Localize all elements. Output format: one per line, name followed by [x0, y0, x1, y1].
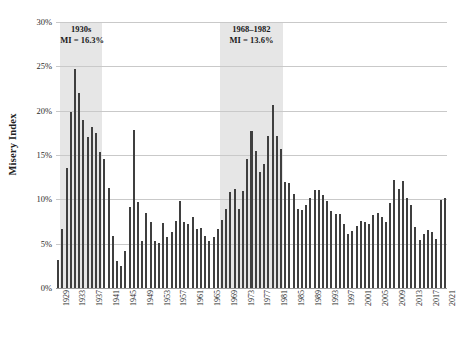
x-tick-label: 1941	[112, 290, 121, 306]
bar	[74, 69, 76, 288]
bar	[246, 159, 248, 288]
x-tick-label: 1969	[230, 290, 239, 306]
bar	[82, 120, 84, 288]
bar	[330, 211, 332, 288]
x-tick-label: 1973	[247, 290, 256, 306]
bar	[255, 151, 257, 288]
x-tick-label: 1949	[146, 290, 155, 306]
y-tick-label: 0%	[6, 283, 56, 293]
bar	[234, 189, 236, 288]
bar	[120, 266, 122, 288]
bar	[372, 215, 374, 288]
bar	[175, 221, 177, 288]
x-tick-label: 1957	[179, 290, 188, 306]
bar	[410, 205, 412, 288]
band-annotation-detail: MI = 13.6%	[220, 35, 283, 46]
bar	[129, 207, 131, 288]
bar	[339, 214, 341, 288]
bar	[360, 221, 362, 288]
y-tick-label: 25%	[6, 61, 56, 71]
bar	[389, 203, 391, 288]
bar	[196, 229, 198, 288]
bar	[364, 222, 366, 288]
band-annotation-label: 1968–1982	[232, 24, 270, 34]
x-tick-label: 2005	[381, 290, 390, 306]
bar	[326, 201, 328, 288]
bar	[381, 217, 383, 288]
bar	[133, 130, 135, 288]
bar	[213, 237, 215, 288]
band-annotation-detail: MI = 16.3%	[60, 35, 102, 46]
x-axis-tick-labels: 1929193319371941194519491953195719611965…	[56, 290, 447, 344]
x-tick-label: 1989	[314, 290, 323, 306]
bar	[242, 191, 244, 288]
band-annotation: 1968–1982MI = 13.6%	[220, 24, 283, 46]
bar	[78, 93, 80, 288]
bar	[356, 226, 358, 288]
bar	[385, 222, 387, 289]
bar	[288, 183, 290, 288]
bar	[154, 241, 156, 288]
bar	[406, 198, 408, 288]
bar	[314, 190, 316, 288]
bar	[137, 202, 139, 288]
x-tick-label: 1945	[129, 290, 138, 306]
y-tick-label: 30%	[6, 17, 56, 27]
band-annotation-label: 1930s	[71, 24, 91, 34]
bar	[124, 251, 126, 288]
bar	[87, 137, 89, 288]
bar	[444, 198, 446, 288]
bar	[141, 241, 143, 288]
bar	[276, 136, 278, 289]
x-tick-label: 2009	[398, 290, 407, 306]
bar	[402, 181, 404, 288]
x-tick-label: 1985	[297, 290, 306, 306]
x-tick-label: 1977	[263, 290, 272, 306]
gridline-0	[56, 288, 447, 289]
bar	[103, 159, 105, 288]
bar	[435, 239, 437, 288]
bar	[377, 213, 379, 288]
bar	[91, 127, 93, 288]
x-tick-label: 1965	[213, 290, 222, 306]
bar	[229, 192, 231, 288]
bar	[301, 210, 303, 288]
y-tick-label: 15%	[6, 150, 56, 160]
bar	[309, 198, 311, 288]
x-tick-label: 1993	[331, 290, 340, 306]
x-tick-label: 2013	[415, 290, 424, 306]
bar	[343, 224, 345, 288]
y-axis-tick-labels: 0%5%10%15%20%25%30%	[0, 0, 56, 344]
bar	[427, 230, 429, 288]
bar	[250, 131, 252, 288]
bar	[297, 209, 299, 288]
bar	[305, 205, 307, 288]
bar	[208, 241, 210, 288]
bar	[70, 112, 72, 288]
bar	[335, 214, 337, 288]
bar	[221, 220, 223, 288]
bar	[187, 224, 189, 288]
bar	[280, 149, 282, 288]
x-tick-label: 2017	[432, 290, 441, 306]
band-annotation: 1930sMI = 16.3%	[60, 24, 102, 46]
bar	[145, 213, 147, 288]
bar	[263, 164, 265, 288]
x-tick-label: 1933	[78, 290, 87, 306]
x-tick-label: 1953	[163, 290, 172, 306]
bar	[322, 195, 324, 288]
bar	[217, 229, 219, 288]
bar	[95, 133, 97, 288]
bar	[431, 232, 433, 288]
bar	[414, 227, 416, 288]
bar	[112, 236, 114, 288]
bar	[99, 152, 101, 288]
x-tick-label: 2001	[364, 290, 373, 306]
bar	[351, 231, 353, 288]
y-tick-label: 10%	[6, 194, 56, 204]
y-tick-label: 20%	[6, 106, 56, 116]
bar	[272, 105, 274, 288]
bar	[200, 228, 202, 288]
bar	[192, 217, 194, 288]
x-tick-label: 1997	[347, 290, 356, 306]
